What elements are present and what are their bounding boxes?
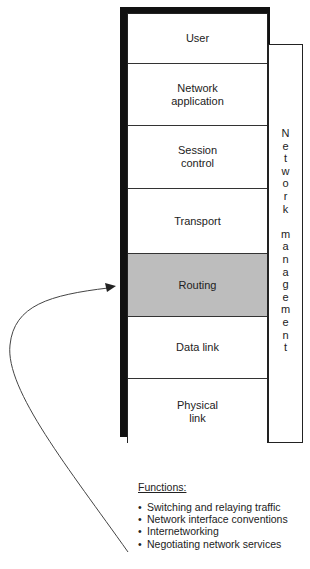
functions-title: Functions: bbox=[138, 481, 288, 493]
function-item: Switching and relaying traffic bbox=[138, 501, 288, 513]
functions-panel: Functions: Switching and relaying traffi… bbox=[138, 481, 288, 550]
function-item: Negotiating network services bbox=[138, 538, 288, 550]
arrowhead-icon bbox=[105, 283, 116, 292]
function-item: Network interface conventions bbox=[138, 513, 288, 525]
function-item: Internetworking bbox=[138, 525, 288, 537]
functions-list: Switching and relaying trafficNetwork in… bbox=[138, 501, 288, 550]
